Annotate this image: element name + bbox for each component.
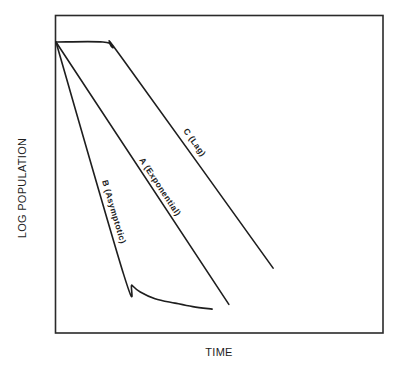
x-axis-label: TIME — [205, 346, 232, 358]
series-layer — [56, 41, 273, 309]
chart: C (Lag) A (Exponential) B (Asymptotic) T… — [0, 0, 398, 370]
y-axis-label: LOG POPULATION — [16, 138, 28, 239]
series-line-b — [56, 42, 212, 309]
series-label-a: A (Exponential) — [137, 156, 183, 218]
plot-frame — [56, 16, 384, 334]
series-label-c: C (Lag) — [181, 126, 208, 158]
label-layer: C (Lag) A (Exponential) B (Asymptotic) — [100, 126, 208, 245]
series-line-a — [56, 42, 229, 304]
